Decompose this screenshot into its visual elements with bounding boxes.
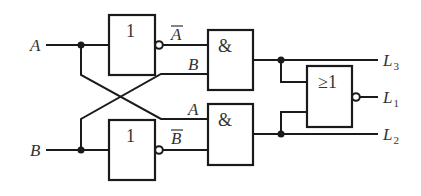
- not-gate-b-bubble: [155, 146, 163, 154]
- label-b-cross: B: [188, 55, 199, 74]
- label-a-bar: A: [170, 25, 182, 44]
- logic-circuit-diagram: A B 1 A 1 B B A & & ≥1 L3 L1 L2: [0, 0, 421, 196]
- junction-l3: [278, 57, 285, 64]
- output-label-l3: L3: [382, 51, 399, 72]
- nor-gate-symbol: ≥1: [318, 72, 337, 92]
- and-gate-bottom-symbol: &: [218, 110, 232, 130]
- input-label-a: A: [29, 36, 41, 55]
- junction-l2: [278, 131, 285, 138]
- nor-gate-bubble: [352, 93, 360, 101]
- junction-a: [78, 42, 85, 49]
- junction-b: [78, 147, 85, 154]
- input-label-b: B: [30, 141, 41, 160]
- not-gate-a-symbol: 1: [126, 21, 135, 41]
- label-a-cross: A: [187, 100, 199, 119]
- label-b-bar: B: [171, 129, 182, 148]
- output-label-l2: L2: [382, 125, 399, 146]
- and-gate-top-symbol: &: [218, 36, 232, 56]
- output-label-l1: L1: [382, 88, 399, 109]
- wire-l3-to-nor: [281, 60, 307, 82]
- wire-l2-to-nor: [281, 112, 307, 134]
- not-gate-b-symbol: 1: [126, 126, 135, 146]
- not-gate-a-bubble: [155, 41, 163, 49]
